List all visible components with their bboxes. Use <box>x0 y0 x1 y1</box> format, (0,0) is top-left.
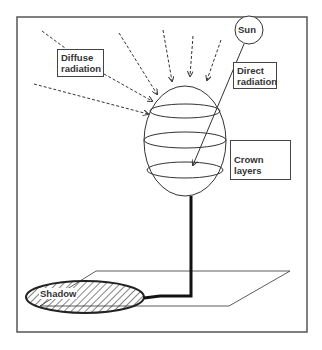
direct-label-line2: radiation <box>237 76 273 87</box>
direct-label-line1: Direct <box>237 65 273 76</box>
crown-outline <box>144 86 226 196</box>
shadow-label: Shadow <box>39 288 77 299</box>
diffuse-label-line2: radiation <box>61 63 100 74</box>
diffuse-radiation-label: Diffuse radiation <box>57 49 104 77</box>
sun-label: Sun <box>238 24 256 35</box>
trunk <box>144 196 191 298</box>
crown-layers-label: Crown layers <box>230 140 291 180</box>
direct-radiation-label: Direct radiation <box>233 62 277 89</box>
diffuse-label-line1: Diffuse <box>61 52 100 63</box>
